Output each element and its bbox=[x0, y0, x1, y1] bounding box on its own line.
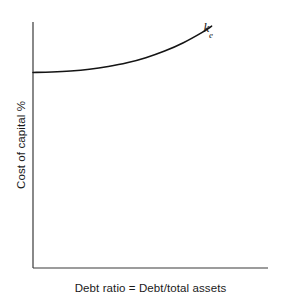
chart-plot-area bbox=[0, 0, 284, 300]
cost-of-equity-label: ke bbox=[204, 21, 214, 39]
cost-of-equity-curve bbox=[33, 26, 212, 72]
chart-figure: Cost of capital % Debt ratio = Debt/tota… bbox=[0, 0, 284, 300]
y-axis-label: Cost of capital % bbox=[14, 75, 28, 215]
x-axis-label: Debt ratio = Debt/total assets bbox=[33, 281, 268, 295]
cost-of-equity-subscript: e bbox=[209, 30, 213, 40]
